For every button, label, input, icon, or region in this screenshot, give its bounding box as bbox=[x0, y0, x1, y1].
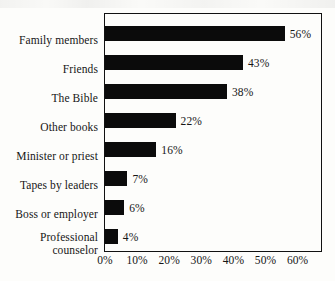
category-axis-labels: Family members Friends The Bible Other b… bbox=[0, 13, 102, 252]
bar-value-label: 22% bbox=[181, 115, 202, 127]
bar-row: 22% bbox=[105, 113, 321, 128]
bar-value-label: 43% bbox=[248, 57, 269, 69]
bar-value-label: 38% bbox=[232, 86, 253, 98]
plot-area: 56%43%38%22%16%7%6%4% bbox=[105, 14, 321, 251]
category-label-boss-or-employer: Boss or employer bbox=[0, 208, 98, 221]
category-label-professional-counselor: Professional counselor bbox=[0, 231, 98, 256]
bar-value-label: 4% bbox=[123, 231, 139, 243]
bar-row: 6% bbox=[105, 200, 321, 215]
bar-value-label: 7% bbox=[132, 173, 148, 185]
category-label-the-bible: The Bible bbox=[0, 92, 98, 105]
category-label-minister-or-priest: Minister or priest bbox=[0, 150, 98, 163]
category-label-professional-counselor-line2: counselor bbox=[52, 244, 98, 256]
scan-artifact bbox=[0, 0, 335, 8]
bar bbox=[105, 229, 118, 244]
bar-row: 56% bbox=[105, 26, 321, 41]
bar bbox=[105, 26, 285, 41]
bar-row: 38% bbox=[105, 84, 321, 99]
plot-frame: 56%43%38%22%16%7%6%4% bbox=[104, 13, 322, 252]
bar-row: 4% bbox=[105, 229, 321, 244]
bar bbox=[105, 55, 243, 70]
x-axis-tick-labels: 0%10%20%30%40%50%60% bbox=[104, 254, 334, 270]
x-axis-tick-label: 0% bbox=[97, 254, 113, 267]
category-label-friends: Friends bbox=[0, 63, 98, 76]
category-label-family-members: Family members bbox=[0, 34, 98, 47]
x-axis-tick-label: 30% bbox=[191, 254, 212, 267]
bar-value-label: 56% bbox=[290, 28, 311, 40]
bar bbox=[105, 84, 227, 99]
bar bbox=[105, 200, 124, 215]
bar bbox=[105, 171, 127, 186]
x-axis-tick-label: 60% bbox=[287, 254, 308, 267]
bar-row: 16% bbox=[105, 142, 321, 157]
x-axis-tick-label: 20% bbox=[158, 254, 179, 267]
category-label-tapes-by-leaders: Tapes by leaders bbox=[0, 179, 98, 192]
bar-row: 43% bbox=[105, 55, 321, 70]
x-axis-tick-label: 40% bbox=[223, 254, 244, 267]
bar-value-label: 16% bbox=[161, 144, 182, 156]
category-label-other-books: Other books bbox=[0, 121, 98, 134]
x-axis-tick-label: 50% bbox=[255, 254, 276, 267]
bar bbox=[105, 113, 176, 128]
bar-chart: Family members Friends The Bible Other b… bbox=[0, 0, 335, 281]
bar bbox=[105, 142, 156, 157]
x-axis-tick-label: 10% bbox=[126, 254, 147, 267]
bar-row: 7% bbox=[105, 171, 321, 186]
category-label-professional-counselor-line1: Professional bbox=[40, 231, 98, 243]
bar-value-label: 6% bbox=[129, 202, 145, 214]
